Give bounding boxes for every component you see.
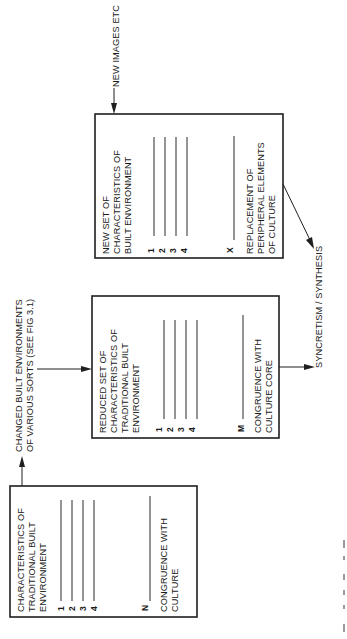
box-new: NEW SET OF CHARACTERISTICS OF BUILT ENVI… <box>95 114 283 258</box>
arrow-head-icon <box>111 103 117 114</box>
syncretism-label: SYNCRETISM / SYNTHESIS <box>314 246 324 368</box>
box-reduced-title-1: REDUCED SET OF <box>98 350 108 433</box>
arrow-box1-out <box>19 456 25 486</box>
box-reduced-item-4: 4 <box>187 427 197 432</box>
box-reduced-item-2: 2 <box>165 427 175 432</box>
box-new-footer-2: PERIPHERAL ELEMENTS <box>256 142 266 254</box>
clipped-caption-marks <box>343 540 345 632</box>
box-new-title-3: BUILT ENVIRONMENT <box>123 156 133 254</box>
box-new-footer-3: OF CULTURE <box>267 195 277 254</box>
box-traditional-item-4: 4 <box>89 606 99 611</box>
box-traditional-item-3: 3 <box>78 606 88 611</box>
box-reduced-title-3: TRADITIONAL BUILT <box>120 343 130 433</box>
arrow-head-icon <box>306 237 314 249</box>
box-reduced-footer-2: CULTURE CORE <box>264 360 274 433</box>
box-traditional-item-2: 2 <box>67 606 77 611</box>
output-syncretism: SYNCRETISM / SYNTHESIS <box>279 184 324 370</box>
new-images-label: NEW IMAGES ETC <box>111 5 121 87</box>
changed-env-line-1: CHANGED BUILT ENVIRONMENTS <box>14 299 24 452</box>
box-reduced-item-m: M <box>236 425 246 432</box>
diagram-canvas: CHARACTERISTICS OF TRADITIONAL BUILT ENV… <box>0 0 347 639</box>
box-reduced-item-3: 3 <box>176 427 186 432</box>
input-changed-environments: CHANGED BUILT ENVIRONMENTS OF VARIOUS SO… <box>14 299 92 452</box>
box-reduced-title-4: ENVIRONMENT <box>131 364 141 433</box>
box-traditional-footer-2: CULTURE <box>170 569 180 612</box>
arrow-head-icon <box>81 366 92 372</box>
box-traditional-title-1: CHARACTERISTICS OF <box>16 508 26 612</box>
input-new-images: NEW IMAGES ETC <box>111 5 121 114</box>
box-traditional-footer-1: CONGRUENCE WITH <box>159 518 169 612</box>
arrow-head-icon <box>19 456 25 467</box>
box-new-item-4: 4 <box>179 248 189 253</box>
box-traditional-item-1: 1 <box>56 606 66 611</box>
box-new-item-3: 3 <box>168 248 178 253</box>
box-traditional: CHARACTERISTICS OF TRADITIONAL BUILT ENV… <box>10 486 197 617</box>
box-reduced-footer-1: CONGRUENCE WITH <box>253 339 263 433</box>
changed-env-line-2: OF VARIOUS SORTS (SEE FIG 3.1) <box>25 299 35 452</box>
box-new-footer-1: REPLACEMENT OF <box>245 168 255 254</box>
box-reduced-item-1: 1 <box>154 427 164 432</box>
box-new-item-2: 2 <box>157 248 167 253</box>
box-new-item-1: 1 <box>146 248 156 253</box>
box-traditional-title-3: ENVIRONMENT <box>38 543 48 612</box>
box-new-item-x: X <box>225 247 235 253</box>
box-new-title-1: NEW SET OF <box>101 196 111 254</box>
box-reduced: REDUCED SET OF CHARACTERISTICS OF TRADIT… <box>92 296 279 438</box>
box-traditional-item-n: N <box>140 605 150 611</box>
box-new-title-2: CHARACTERISTICS OF <box>112 150 122 254</box>
box-reduced-title-2: CHARACTERISTICS OF <box>109 329 119 433</box>
box-traditional-title-2: TRADITIONAL BUILT <box>27 522 37 612</box>
